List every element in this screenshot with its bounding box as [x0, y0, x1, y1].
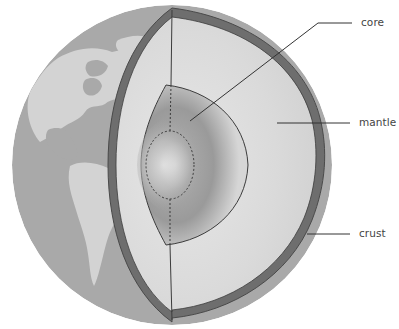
label-mantle: mantle [359, 116, 396, 128]
label-core: core [361, 16, 384, 28]
label-crust: crust [359, 227, 386, 239]
earth-layers-diagram [0, 0, 399, 329]
